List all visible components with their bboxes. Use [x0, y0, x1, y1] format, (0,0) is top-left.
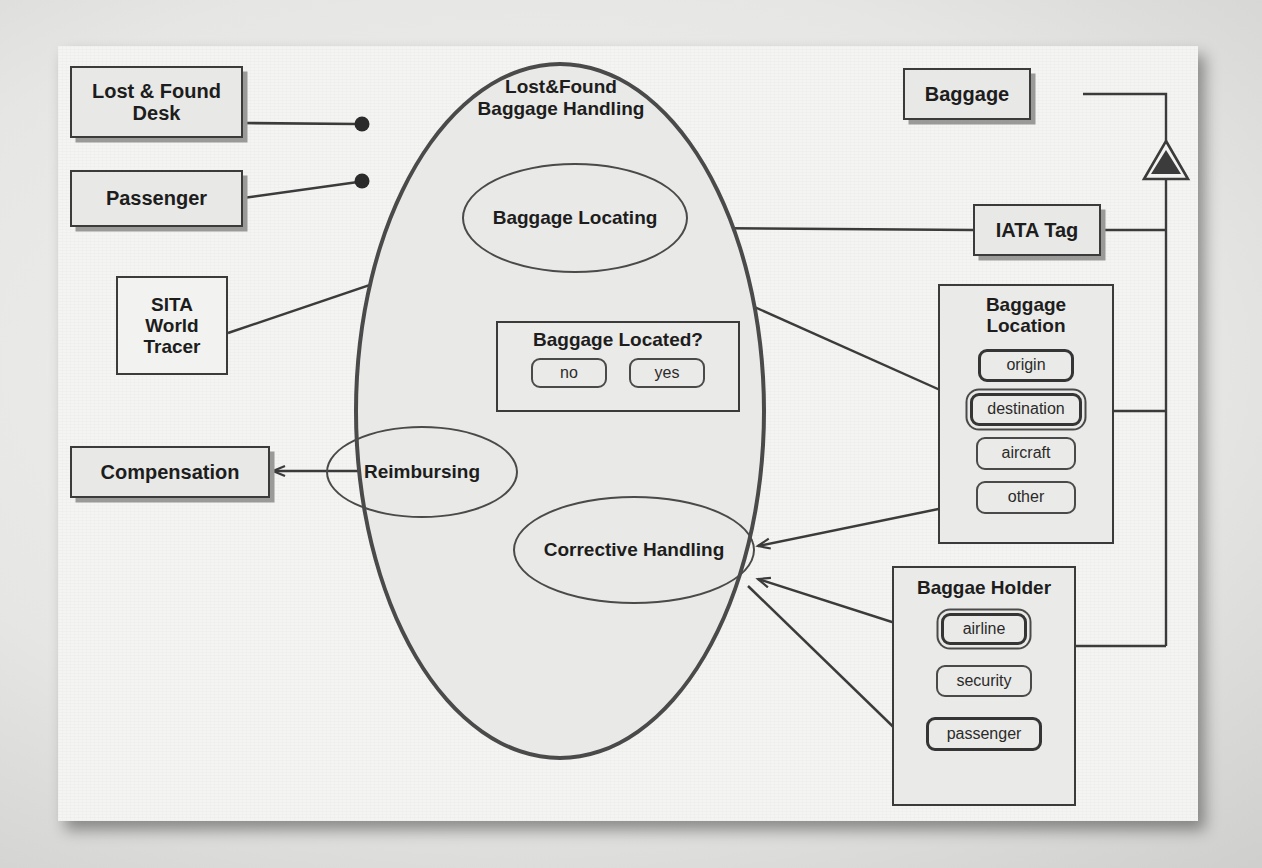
edge-passenger-to-boundary [243, 182, 358, 198]
class-baggage-location: Baggage Location origin destination airc… [938, 284, 1114, 544]
class-baggage-label: Baggage [925, 83, 1009, 105]
baggae-holder-item-security-label: security [956, 672, 1011, 690]
class-baggage[interactable]: Baggage [903, 68, 1031, 120]
association-dot-passenger [355, 174, 370, 189]
actor-sita-world-tracer[interactable]: SITA World Tracer [116, 276, 228, 375]
usecase-baggage-locating-label: Baggage Locating [493, 207, 658, 229]
baggae-holder-item-passenger[interactable]: passenger [926, 717, 1042, 751]
actor-lost-and-found-desk[interactable]: Lost & Found Desk [70, 66, 243, 138]
usecase-baggage-locating[interactable]: Baggage Locating [462, 163, 688, 273]
baggage-location-item-destination-label: destination [987, 400, 1064, 418]
baggage-location-item-aircraft-label: aircraft [1002, 444, 1051, 462]
class-baggage-location-title: Baggage Location [940, 294, 1112, 337]
baggage-location-title-line2: Location [940, 315, 1112, 336]
actor-passenger-label: Passenger [106, 187, 207, 209]
class-iata-tag[interactable]: IATA Tag [973, 204, 1101, 256]
usecase-corrective-handling[interactable]: Corrective Handling [513, 496, 755, 604]
usecase-corrective-handling-label: Corrective Handling [544, 539, 725, 561]
edge-lostfound-to-boundary [243, 123, 358, 124]
compensation-label: Compensation [101, 461, 240, 483]
usecase-reimbursing-label: Reimbursing [364, 461, 480, 483]
decision-baggage-located: Baggage Located? no yes [496, 321, 740, 412]
edge-baggage-locating-to-iata [696, 228, 973, 230]
uml-diagram-canvas: Lost&Found Baggage Handling Lost & Found… [58, 46, 1198, 821]
scanned-page: Lost&Found Baggage Handling Lost & Found… [58, 46, 1198, 821]
decision-title: Baggage Located? [498, 329, 738, 351]
actor-lost-and-found-desk-line2: Desk [133, 102, 181, 124]
baggage-location-item-other-label: other [1008, 488, 1044, 506]
sita-line1: SITA [151, 294, 193, 315]
class-iata-tag-label: IATA Tag [996, 219, 1079, 241]
artifact-compensation[interactable]: Compensation [70, 446, 270, 498]
baggage-location-item-origin-label: origin [1006, 356, 1045, 374]
edge-baggage-to-generalization [1083, 94, 1166, 141]
decision-option-no-label: no [560, 364, 578, 382]
actor-lost-and-found-desk-line1: Lost & Found [92, 80, 221, 102]
baggage-location-item-origin[interactable]: origin [978, 349, 1074, 382]
decision-option-yes[interactable]: yes [629, 358, 705, 388]
baggae-holder-item-airline-label: airline [963, 620, 1006, 638]
system-boundary-title-line2: Baggage Handling [456, 98, 666, 120]
baggage-location-item-destination[interactable]: destination [970, 393, 1082, 426]
class-baggae-holder: Baggae Holder airline security passenger [892, 566, 1076, 806]
edge-other-to-corrective [758, 505, 958, 546]
actor-passenger[interactable]: Passenger [70, 170, 243, 227]
class-baggae-holder-title: Baggae Holder [894, 577, 1074, 599]
decision-option-yes-label: yes [655, 364, 680, 382]
baggage-location-title-line1: Baggage [940, 294, 1112, 315]
association-dot-lostfound [355, 117, 370, 132]
baggae-holder-item-airline[interactable]: airline [941, 613, 1027, 645]
sita-line3: Tracer [143, 336, 200, 357]
system-boundary-title: Lost&Found Baggage Handling [456, 76, 666, 120]
baggage-location-item-aircraft[interactable]: aircraft [976, 437, 1076, 470]
system-boundary-title-line1: Lost&Found [456, 76, 666, 98]
usecase-reimbursing[interactable]: Reimbursing [326, 426, 518, 518]
decision-option-no[interactable]: no [531, 358, 607, 388]
baggae-holder-item-passenger-label: passenger [947, 725, 1022, 743]
baggage-location-item-other[interactable]: other [976, 481, 1076, 514]
baggae-holder-item-security[interactable]: security [936, 665, 1032, 697]
edge-corrective-to-passenger [748, 586, 913, 746]
sita-line2: World [145, 315, 198, 336]
